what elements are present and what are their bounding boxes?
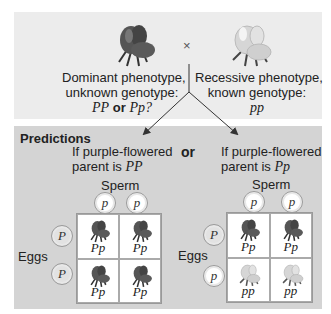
right-sperm-label: Sperm [252,177,290,192]
cell-genotype: Pp [78,284,118,300]
punnett-cell: Pp [77,214,119,259]
punnett-cell: Pp [227,213,270,258]
left-sperm-allele-1: p [94,192,116,214]
right-line2-text: parent is [221,159,271,174]
right-egg-allele-1: P [203,224,225,246]
left-egg-allele-2: P [51,263,73,285]
right-genotype: Pp [275,159,291,174]
cell-genotype: Pp [78,240,118,256]
left-scenario-label: If purple-flowered parent is PP [72,144,172,174]
left-punnett-square: Pp Pp Pp Pp [76,213,162,304]
left-genotype: PP [126,159,143,174]
left-line2: parent is PP [72,159,172,174]
right-egg-allele-2: p [203,265,225,287]
punnett-cell: pp [227,258,270,303]
cell-genotype: Pp [228,239,269,255]
right-punnett-square: Pp Pp pp pp [226,212,313,303]
cell-genotype: Pp [271,239,312,255]
punnett-cell: pp [270,258,313,303]
left-sperm-label: Sperm [101,178,139,193]
right-sperm-allele-1: p [243,191,265,213]
punnett-cell: Pp [119,214,161,259]
cell-genotype: Pp [120,240,160,256]
right-line2: parent is Pp [221,159,321,174]
left-egg-allele-1: P [51,225,73,247]
right-sperm-allele-2: p [281,191,303,213]
predictions-or: or [181,144,195,160]
right-scenario-label: If purple-flowered parent is Pp [221,144,321,174]
punnett-cell: Pp [270,213,313,258]
left-line2-text: parent is [72,159,122,174]
left-eggs-label: Eggs [18,249,48,264]
left-sperm-allele-2: p [126,192,148,214]
cell-genotype: pp [271,283,312,299]
punnett-cell: Pp [119,259,161,304]
punnett-cell: Pp [77,259,119,304]
right-eggs-label: Eggs [178,248,208,263]
left-line1: If purple-flowered [72,144,172,159]
right-line1: If purple-flowered [221,144,321,159]
cell-genotype: Pp [120,284,160,300]
cell-genotype: pp [228,283,269,299]
